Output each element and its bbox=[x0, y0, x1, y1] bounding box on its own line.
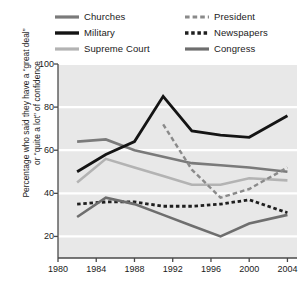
plot-area bbox=[0, 0, 307, 295]
x-tick-label-2000: 2000 bbox=[229, 264, 269, 274]
x-tick-label-1984: 1984 bbox=[76, 264, 116, 274]
chart-figure: ChurchesMilitarySupreme CourtPresidentNe… bbox=[0, 0, 307, 295]
x-tick-label-2004: 2004 bbox=[267, 264, 307, 274]
x-tick-label-1992: 1992 bbox=[153, 264, 193, 274]
x-tick-label-1980: 1980 bbox=[38, 264, 78, 274]
x-tick-label-1996: 1996 bbox=[191, 264, 231, 274]
x-axis-tick-labels: 1980198419881992199620002004 bbox=[0, 264, 307, 280]
x-tick-label-1988: 1988 bbox=[114, 264, 154, 274]
